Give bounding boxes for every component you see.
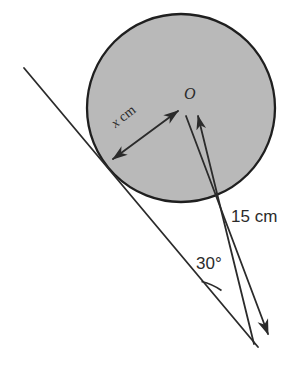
angle-measure-label: 30° (196, 255, 222, 272)
shaded-circle (87, 14, 275, 202)
geometry-diagram: O x cm 15 cm 30° (0, 0, 301, 365)
angle-arc-30 (202, 282, 222, 291)
center-point-label: O (184, 86, 196, 102)
hypotenuse-length-label: 15 cm (231, 208, 277, 225)
geometry-canvas (0, 0, 301, 365)
